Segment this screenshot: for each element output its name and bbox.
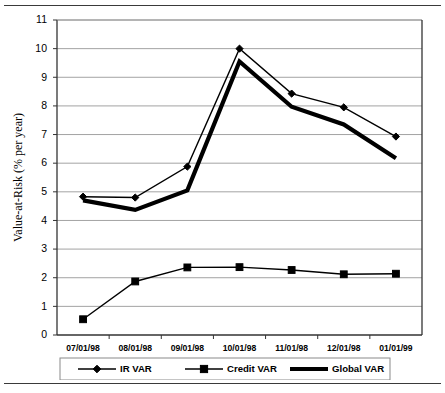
y-axis-tick-label: 9 xyxy=(41,71,47,83)
y-axis-tick-label: 3 xyxy=(41,242,47,254)
bottom-divider-rule xyxy=(4,383,441,384)
y-axis-tick-label: 8 xyxy=(41,99,47,111)
y-axis-tick-label: 1 xyxy=(41,300,47,312)
y-axis-tick-label: 10 xyxy=(35,42,47,54)
legend-marker-icon xyxy=(200,365,207,372)
data-point-marker xyxy=(184,264,191,271)
x-axis-category-label: 09/01/98 xyxy=(171,343,205,353)
x-axis-category-label: 11/01/98 xyxy=(275,343,308,353)
series-credit-var xyxy=(80,264,400,323)
y-axis-tick-label: 5 xyxy=(41,185,47,197)
x-axis-category-label: 07/01/98 xyxy=(66,343,100,353)
top-divider-rule xyxy=(4,5,441,6)
data-point-marker xyxy=(288,267,295,274)
plot-frame xyxy=(57,20,422,335)
series-line xyxy=(83,267,396,319)
y-axis-tick-label: 7 xyxy=(41,128,47,140)
data-point-marker xyxy=(80,316,87,323)
data-point-marker xyxy=(340,104,347,111)
x-axis-category-label: 10/01/98 xyxy=(223,343,257,353)
y-axis-title: Value-at-Risk (% per year) xyxy=(11,113,25,242)
y-axis-tick-label: 6 xyxy=(41,156,47,168)
series-line xyxy=(83,62,396,210)
legend-entry-credit-var[interactable]: Credit VAR xyxy=(185,363,277,374)
x-axis-category-label: 01/01/99 xyxy=(379,343,413,353)
data-point-marker xyxy=(340,271,347,278)
data-point-marker xyxy=(132,194,139,201)
x-axis-category-labels: 07/01/9808/01/9809/01/9810/01/9811/01/98… xyxy=(66,343,413,353)
y-axis-tick-label: 4 xyxy=(41,214,47,226)
line-chart: 01234567891011 07/01/9808/01/9809/01/981… xyxy=(0,8,445,380)
legend-label: IR VAR xyxy=(120,363,152,374)
legend-marker-icon xyxy=(93,365,101,373)
series-line xyxy=(83,49,396,198)
chart-legend: IR VARCredit VARGlobal VAR xyxy=(60,358,390,380)
legend-entry-ir-var[interactable]: IR VAR xyxy=(78,363,152,374)
data-point-marker xyxy=(184,163,191,170)
data-point-marker xyxy=(132,278,139,285)
series-ir-var xyxy=(79,45,399,201)
series-global-var xyxy=(83,62,396,210)
data-point-marker xyxy=(393,270,400,277)
legend-label: Global VAR xyxy=(332,363,384,374)
figure-container: 01234567891011 07/01/9808/01/9809/01/981… xyxy=(0,0,445,393)
y-axis-tick-label: 11 xyxy=(36,13,47,25)
x-axis-category-label: 12/01/98 xyxy=(327,343,361,353)
data-point-marker xyxy=(392,133,399,140)
legend-entry-global-var[interactable]: Global VAR xyxy=(290,363,384,374)
y-axis-tick-label: 2 xyxy=(41,271,47,283)
y-axis-tick-labels: 01234567891011 xyxy=(35,13,47,340)
x-axis-category-label: 08/01/98 xyxy=(118,343,152,353)
series-lines-group xyxy=(79,45,399,323)
data-point-marker xyxy=(236,264,243,271)
y-axis-tick-label: 0 xyxy=(41,328,47,340)
legend-label: Credit VAR xyxy=(227,363,277,374)
